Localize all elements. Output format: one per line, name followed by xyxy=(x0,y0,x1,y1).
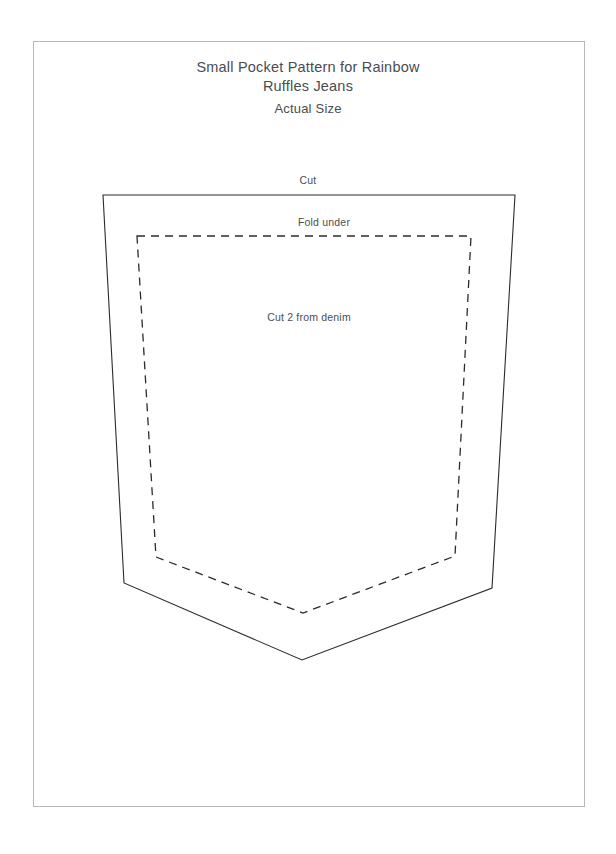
document-page: Small Pocket Pattern for Rainbow Ruffles… xyxy=(0,0,616,854)
label-cut-2-from-denim: Cut 2 from denim xyxy=(0,311,616,323)
label-fold-under: Fold under xyxy=(0,216,616,228)
cut-line-outline xyxy=(103,195,515,660)
pocket-pattern-diagram xyxy=(0,0,616,854)
fold-under-line xyxy=(137,236,471,613)
label-cut: Cut xyxy=(0,174,616,186)
